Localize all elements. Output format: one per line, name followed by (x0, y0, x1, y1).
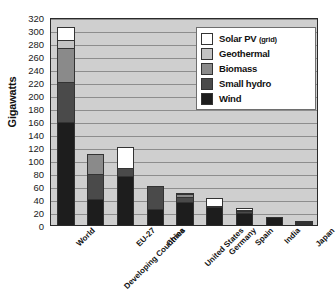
y-axis-tick-label: 180 (28, 105, 44, 114)
legend-item-label: Small hydro (219, 78, 271, 89)
y-axis-tick-label: 20 (33, 209, 44, 218)
bar-group[interactable] (176, 193, 193, 225)
bar-segment (295, 224, 312, 225)
bar-segment (57, 48, 74, 82)
legend-item[interactable]: Geothermal (201, 46, 311, 61)
bar-group[interactable] (206, 198, 223, 225)
bar-segment (117, 147, 134, 168)
legend-item[interactable]: Biomass (201, 61, 311, 76)
y-axis-tick-label: 120 (28, 144, 44, 153)
bar-group[interactable] (147, 186, 164, 225)
bar-segment (87, 174, 104, 199)
legend-swatch (201, 48, 213, 60)
x-axis-tick-label: Spain (254, 226, 276, 248)
y-axis-tick-label: 160 (28, 118, 44, 127)
bar-segment (206, 198, 223, 206)
bar-segment (57, 40, 74, 47)
bar-segment (147, 186, 164, 209)
legend-item-label: Solar PV (grid) (219, 33, 277, 44)
bar-segment (176, 202, 193, 225)
legend-item-label: Geothermal (219, 48, 270, 59)
y-axis-tick-label: 0 (39, 222, 44, 231)
legend-swatch (201, 63, 213, 75)
y-axis-tick-label: 220 (28, 79, 44, 88)
y-axis-tick-label: 280 (28, 40, 44, 49)
y-axis-tick-label: 200 (28, 92, 44, 101)
bar-segment (87, 199, 104, 225)
bar-segment (236, 213, 253, 225)
y-axis-tick-labels: 0204060801001201401601802002202402602803… (0, 18, 48, 226)
bar-segment (117, 176, 134, 225)
legend-item-label: Wind (219, 93, 241, 104)
bar-segment (266, 217, 283, 225)
bar-group[interactable] (57, 27, 74, 225)
y-axis-tick-label: 320 (28, 14, 44, 23)
bar-group[interactable] (87, 154, 104, 225)
y-axis-tick-label: 240 (28, 66, 44, 75)
x-axis-tick-label: Japan (313, 226, 336, 249)
legend-item-label: Biomass (219, 63, 257, 74)
y-axis-tick-label: 80 (33, 170, 44, 179)
y-axis-tick-label: 300 (28, 27, 44, 36)
bar-segment (87, 154, 104, 175)
y-axis-tick-label: 140 (28, 131, 44, 140)
bar-segment (57, 82, 74, 122)
bar-segment (57, 122, 74, 225)
legend-swatch (201, 78, 213, 90)
legend-item-sublabel: (grid) (259, 35, 277, 44)
x-axis-tick-labels: WorldDeveloping CountriesEU-27ChinaUnite… (50, 226, 318, 275)
bar-segment (147, 209, 164, 225)
x-axis-tick-label: China (164, 226, 186, 248)
x-axis-tick-label: World (75, 226, 97, 248)
bar-segment (206, 207, 223, 225)
legend-item[interactable]: Small hydro (201, 76, 311, 91)
y-axis-tick-label: 60 (33, 183, 44, 192)
bar-group[interactable] (236, 208, 253, 225)
y-axis-tick-label: 260 (28, 53, 44, 62)
legend-swatch (201, 93, 213, 105)
chart-legend: Solar PV (grid)GeothermalBiomassSmall hy… (196, 27, 316, 110)
y-axis-tick-label: 100 (28, 157, 44, 166)
x-axis-tick-label: India (282, 226, 302, 246)
bar-group[interactable] (117, 147, 134, 225)
legend-item[interactable]: Wind (201, 91, 311, 106)
legend-swatch (201, 33, 213, 45)
y-axis-tick-label: 40 (33, 196, 44, 205)
bar-segment (117, 168, 134, 176)
bar-group[interactable] (295, 221, 312, 225)
bar-segment (57, 27, 74, 41)
legend-item[interactable]: Solar PV (grid) (201, 31, 311, 46)
bar-group[interactable] (266, 217, 283, 225)
x-axis-tick-label: EU-27 (135, 226, 157, 248)
